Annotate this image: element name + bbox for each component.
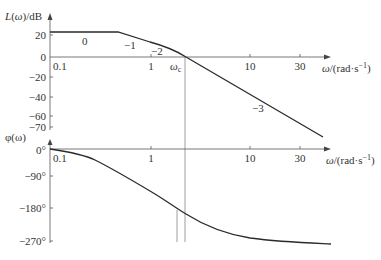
mag-xtick-30: 30 (295, 60, 307, 72)
mag-ytick-20: 20 (35, 29, 47, 41)
mag-y-arrow-icon (48, 13, 53, 20)
mag-ytick-neg40: −40 (29, 91, 47, 103)
phase-xtick-0.1: 0.1 (53, 152, 67, 164)
omega-c-label: ωc (170, 60, 182, 74)
slope-label-neg1: −1 (124, 39, 136, 51)
mag-ytick-neg70: −70 (29, 121, 47, 133)
phase-ytick-neg90: −90° (24, 170, 46, 182)
phase-xtick-1: 1 (148, 152, 154, 164)
mag-xtick-10: 10 (245, 60, 257, 72)
phase-xtick-30: 30 (295, 152, 307, 164)
slope-label-neg3: −3 (252, 102, 264, 114)
mag-y-ticks: 20 0 −20 −40 −60 −70 (29, 29, 53, 133)
mag-y-label: L(ω)/dB (4, 10, 42, 23)
mag-ytick-neg20: −20 (29, 71, 47, 83)
phase-ytick-0: 0° (36, 144, 46, 156)
magnitude-plot: L(ω)/dB 20 0 −20 −40 −60 −70 0.1 1 10 30… (4, 10, 371, 242)
mag-xtick-1: 1 (148, 60, 154, 72)
phase-y-arrow-icon (48, 139, 53, 145)
phase-x-arrow-icon (324, 147, 331, 152)
phase-x-label: ω/(rad·s−1) (326, 153, 375, 167)
phase-xtick-10: 10 (245, 152, 257, 164)
phase-plot: φ(ω) 0° −90° −180° −270° 0.1 1 10 30 ω/(… (5, 131, 375, 247)
phase-ytick-neg180: −180° (19, 202, 46, 214)
mag-ytick-0: 0 (41, 51, 47, 63)
mag-x-label: ω/(rad·s−1) (322, 61, 371, 75)
bode-plot: L(ω)/dB 20 0 −20 −40 −60 −70 0.1 1 10 30… (0, 0, 381, 260)
magnitude-curve (50, 32, 323, 137)
phase-y-label: φ(ω) (5, 131, 26, 144)
phase-ytick-neg270: −270° (19, 235, 46, 247)
mag-xtick-0.1: 0.1 (53, 60, 67, 72)
phase-y-ticks: 0° −90° −180° −270° (19, 144, 53, 247)
mag-x-arrow-icon (324, 55, 331, 60)
slope-label-0: 0 (82, 35, 88, 47)
slope-label-neg2: −2 (151, 45, 163, 57)
phase-curve (50, 149, 331, 244)
